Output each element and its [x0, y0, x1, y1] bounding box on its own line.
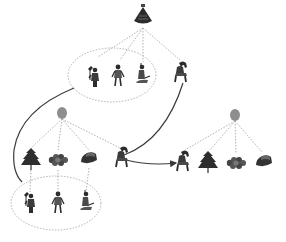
tree-icon: [198, 151, 218, 173]
person-standing-icon: [112, 65, 124, 86]
person-with-axe-icon: [88, 66, 99, 87]
person-crouching-icon: [177, 151, 189, 172]
right-concept-node: [230, 109, 240, 121]
hat-icon: [81, 152, 97, 163]
hat-icon: [256, 155, 272, 166]
person-crouching-icon: [175, 62, 187, 83]
person-with-axe-icon: [24, 192, 35, 213]
person-standing-icon: [52, 192, 64, 213]
tree-icon: [21, 148, 41, 170]
solid-links: [14, 83, 183, 182]
diagram-svg: [0, 0, 286, 242]
person-crouching-icon: [116, 147, 128, 168]
cloud-shape-icon: [227, 157, 246, 169]
lamp-icon: [134, 4, 152, 24]
left-concept-node: [57, 107, 67, 119]
cloud-shape-icon: [49, 154, 68, 166]
person-kneeling-icon: [80, 190, 94, 210]
diagram-canvas: [0, 0, 286, 242]
person-kneeling-icon: [136, 63, 150, 83]
